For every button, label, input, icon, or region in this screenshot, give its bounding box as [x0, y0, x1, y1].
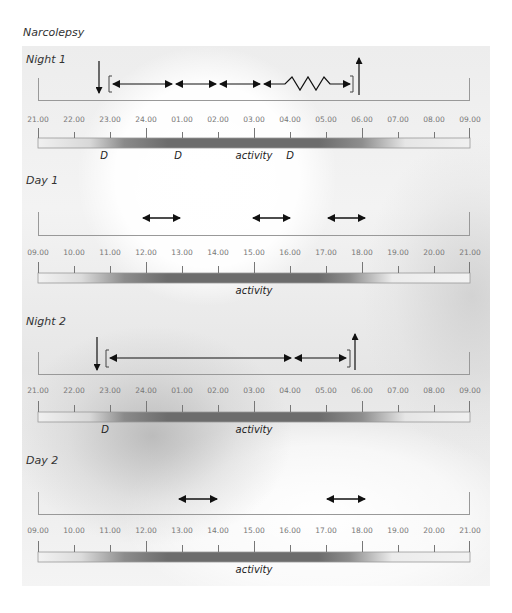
svg-text:22.00: 22.00	[63, 115, 85, 124]
svg-text:21.00: 21.00	[27, 115, 49, 124]
svg-text:10.00: 10.00	[63, 248, 85, 257]
activity-label: activity	[236, 285, 274, 296]
svg-text:18.00: 18.00	[351, 526, 373, 535]
svg-text:12.00: 12.00	[135, 526, 157, 535]
panel-day-2: Day 2 09.00 10.00 11.00 12.00 13.00 14.0…	[26, 454, 481, 575]
svg-text:04.00: 04.00	[279, 386, 301, 395]
panel-day-1: Day 1 09.00 10.00 11.00 12.00 13.00 14.0…	[26, 174, 481, 296]
svg-text:13.00: 13.00	[171, 526, 193, 535]
activity-label: activity	[236, 564, 274, 575]
bracket-close-icon	[350, 76, 353, 92]
sleep-frame	[38, 352, 470, 375]
svg-text:02.00: 02.00	[207, 386, 229, 395]
svg-text:09.00: 09.00	[459, 386, 481, 395]
svg-text:15.00: 15.00	[243, 526, 265, 535]
svg-text:14.00: 14.00	[207, 248, 229, 257]
svg-text:06.00: 06.00	[351, 386, 373, 395]
panel-night-2: Night 2 21.00 22.00 23.00 24.00 01.00 02…	[26, 315, 481, 435]
time-axis-labels: 21.00 22.00 23.00 24.00 01.00 02.00 03.0…	[27, 115, 481, 124]
panel-night-1: Night 1 21.00 22.00 23.00 24.00 01.00 02…	[26, 53, 481, 161]
svg-text:12.00: 12.00	[135, 248, 157, 257]
svg-text:09.00: 09.00	[459, 115, 481, 124]
svg-text:19.00: 19.00	[387, 526, 409, 535]
svg-text:20.00: 20.00	[423, 248, 445, 257]
sleep-frame	[38, 78, 470, 101]
svg-text:03.00: 03.00	[243, 386, 265, 395]
event-markers	[99, 58, 359, 95]
svg-text:24.00: 24.00	[135, 115, 157, 124]
svg-text:10.00: 10.00	[63, 526, 85, 535]
drowsiness-label: D	[100, 150, 108, 161]
svg-text:16.00: 16.00	[279, 248, 301, 257]
svg-text:01.00: 01.00	[171, 115, 193, 124]
activity-label: activity	[236, 150, 274, 161]
svg-text:21.00: 21.00	[459, 248, 481, 257]
svg-text:17.00: 17.00	[315, 248, 337, 257]
bracket-open-icon	[109, 76, 112, 92]
svg-text:05.00: 05.00	[315, 115, 337, 124]
svg-text:07.00: 07.00	[387, 115, 409, 124]
svg-text:22.00: 22.00	[63, 386, 85, 395]
time-axis-labels: 09.00 10.00 11.00 12.00 13.00 14.00 15.0…	[27, 248, 481, 257]
svg-text:03.00: 03.00	[243, 115, 265, 124]
svg-text:17.00: 17.00	[315, 526, 337, 535]
svg-text:23.00: 23.00	[99, 115, 121, 124]
panel-label: Night 1	[26, 53, 66, 66]
svg-text:11.00: 11.00	[99, 248, 121, 257]
svg-text:16.00: 16.00	[279, 526, 301, 535]
svg-text:09.00: 09.00	[27, 526, 49, 535]
panel-label: Day 1	[26, 174, 58, 187]
svg-text:21.00: 21.00	[27, 386, 49, 395]
svg-text:05.00: 05.00	[315, 386, 337, 395]
svg-text:11.00: 11.00	[99, 526, 121, 535]
zigzag-arrow	[264, 77, 350, 90]
activity-bar	[38, 401, 470, 422]
svg-text:13.00: 13.00	[171, 248, 193, 257]
panel-label: Day 2	[26, 454, 58, 467]
event-markers	[97, 334, 355, 370]
activity-bar	[38, 128, 470, 148]
svg-text:24.00: 24.00	[135, 386, 157, 395]
time-axis-labels: 21.00 22.00 23.00 24.00 01.00 02.00 03.0…	[27, 386, 481, 395]
sleep-frame	[38, 492, 470, 515]
svg-text:09.00: 09.00	[27, 248, 49, 257]
svg-text:21.00: 21.00	[459, 526, 481, 535]
drowsiness-label: D	[174, 150, 182, 161]
drowsiness-label: D	[286, 150, 294, 161]
activity-bar	[38, 262, 470, 283]
svg-text:19.00: 19.00	[387, 248, 409, 257]
svg-text:04.00: 04.00	[279, 115, 301, 124]
time-axis-labels: 09.00 10.00 11.00 12.00 13.00 14.00 15.0…	[27, 526, 481, 535]
svg-text:08.00: 08.00	[423, 115, 445, 124]
svg-text:23.00: 23.00	[99, 386, 121, 395]
bracket-close-icon	[347, 350, 350, 367]
svg-text:01.00: 01.00	[171, 386, 193, 395]
bracket-open-icon	[106, 350, 109, 367]
sleep-frame	[38, 212, 470, 236]
activity-label: activity	[236, 424, 274, 435]
svg-text:08.00: 08.00	[423, 386, 445, 395]
svg-text:02.00: 02.00	[207, 115, 229, 124]
svg-text:15.00: 15.00	[243, 248, 265, 257]
svg-text:14.00: 14.00	[207, 526, 229, 535]
activity-bar	[38, 541, 470, 562]
svg-text:20.00: 20.00	[423, 526, 445, 535]
svg-text:18.00: 18.00	[351, 248, 373, 257]
svg-text:07.00: 07.00	[387, 386, 409, 395]
drowsiness-label: D	[101, 424, 109, 435]
svg-text:06.00: 06.00	[351, 115, 373, 124]
panel-label: Night 2	[26, 315, 66, 328]
